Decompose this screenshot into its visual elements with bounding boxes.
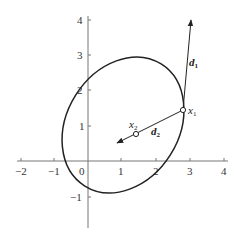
ellipse-contour [37,34,208,215]
y-tick-label: 4 [77,14,83,26]
y-tick-label: 1 [79,120,85,132]
d1-label: d1 [189,56,199,70]
direction-d2-arrow [117,110,183,143]
origin-label: 0 [79,165,85,177]
y-tick-label: −1 [70,191,82,203]
x-tick-label: 4 [221,165,227,177]
y-tick-label: 3 [77,49,83,61]
ellipse-diagram: −2 −1 0 1 2 3 4 4 3 2 1 −1 x1 x2 d1 d2 [0,0,242,241]
x-tick-label: −1 [48,165,60,177]
d2-label: d2 [151,125,161,139]
x-tick-label: 1 [118,165,124,177]
point-x1 [180,107,185,112]
x1-label: x1 [187,104,197,118]
x-tick-label: −2 [15,165,27,177]
x2-label: x2 [128,118,138,132]
point-x2 [133,131,138,136]
x-tick-label: 3 [187,165,193,177]
